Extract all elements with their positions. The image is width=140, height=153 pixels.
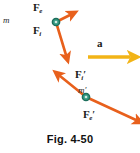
internal-force-upper-arrow: [56, 22, 66, 55]
figure-vector-canvas: [0, 0, 140, 153]
force-prime: ′: [83, 69, 86, 80]
force-subscript: i: [39, 30, 41, 38]
mass-label-upper: m: [3, 16, 10, 25]
force-subscript: e: [39, 7, 42, 15]
external-force-lower-label: Fe′: [83, 109, 95, 122]
acceleration-label: a: [97, 38, 103, 49]
force-prime: ′: [92, 109, 95, 120]
mass-label-lower: m′: [78, 86, 86, 95]
mass-symbol-upper: m: [3, 15, 10, 25]
internal-force-upper-label: Fi: [33, 25, 41, 38]
mass-prime-lower: ′: [85, 85, 87, 95]
internal-force-lower-label: Fi′: [75, 69, 86, 82]
figure-caption: Fig. 4-50: [0, 133, 140, 145]
physics-figure: m Fe Fi a Fi′ m′ Fe′ Fig. 4-50: [0, 0, 140, 153]
mass-marker-upper-highlight: [55, 21, 58, 24]
external-force-upper-label: Fe: [33, 2, 42, 15]
mass-marker-lower-highlight: [85, 96, 88, 99]
